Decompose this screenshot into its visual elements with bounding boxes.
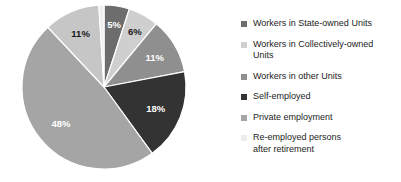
legend-swatch-icon <box>241 74 247 80</box>
pie-chart-figure: 5%6%11%18%48%11%1% Workers in State-owne… <box>0 0 401 182</box>
legend-item: Re-employed persons after retirement <box>241 132 401 155</box>
legend-swatch-icon <box>241 135 247 141</box>
legend-swatch-icon <box>241 115 247 121</box>
legend-item-label: Workers in State-owned Units <box>253 18 372 30</box>
legend-item-label: Private employment <box>253 112 333 124</box>
legend-item: Self-employed <box>241 91 401 103</box>
legend-item: Private employment <box>241 112 401 124</box>
legend-swatch-icon <box>241 42 247 48</box>
legend-item: Workers in State-owned Units <box>241 18 401 30</box>
legend-swatch-icon <box>241 21 247 27</box>
legend-item-label: Workers in Collectively-owned Units <box>253 39 373 62</box>
chart-legend: Workers in State-owned UnitsWorkers in C… <box>241 18 401 164</box>
pie-plot-area: 5%6%11%18%48%11%1% <box>0 0 210 182</box>
legend-item: Workers in other Units <box>241 71 401 83</box>
legend-item-label: Re-employed persons after retirement <box>253 132 341 155</box>
legend-item: Workers in Collectively-owned Units <box>241 39 401 62</box>
legend-item-label: Self-employed <box>253 91 311 103</box>
legend-item-label: Workers in other Units <box>253 71 342 83</box>
legend-swatch-icon <box>241 94 247 100</box>
pie-svg <box>0 0 210 182</box>
pie-slice-group <box>22 5 186 169</box>
